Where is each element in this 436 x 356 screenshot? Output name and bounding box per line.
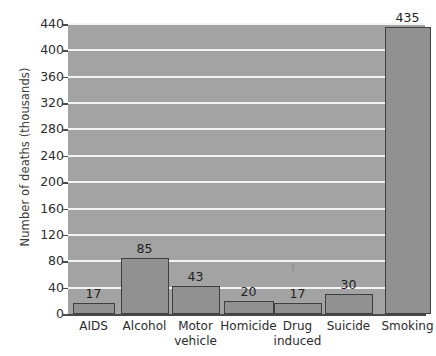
x-axis-line (68, 314, 426, 316)
y-tick-mark (63, 209, 68, 211)
gridline (68, 23, 425, 25)
y-tick-mark (63, 129, 68, 131)
y-tick-mark (63, 182, 68, 184)
y-tick-label: 0 (22, 308, 64, 320)
bar-value-label: 30 (319, 278, 379, 292)
bar (73, 303, 115, 314)
bar-value-label: 17 (64, 287, 124, 301)
bar (121, 258, 169, 314)
y-tick-label: 240 (22, 150, 64, 162)
y-axis-tick-labels: 04080120160200240280320360400440 (22, 24, 64, 314)
y-tick-label: 320 (22, 97, 64, 109)
y-tick-label: 200 (22, 176, 64, 188)
gridline (68, 208, 425, 210)
y-tick-label: 40 (22, 282, 64, 294)
gridline (68, 49, 425, 51)
y-tick-mark (63, 77, 68, 79)
y-tick-label: 280 (22, 123, 64, 135)
bar (224, 301, 274, 314)
y-tick-label: 400 (22, 44, 64, 56)
bar-chart: Number of deaths (thousands) 04080120160… (0, 0, 436, 356)
x-category-label: Smoking (374, 319, 436, 334)
bar-value-label: 85 (115, 242, 175, 256)
y-tick-mark (63, 103, 68, 105)
y-tick-mark (63, 235, 68, 237)
gridline (68, 181, 425, 183)
y-tick-mark (63, 261, 68, 263)
x-category-label: Suicide (315, 319, 383, 334)
y-tick-label: 80 (22, 255, 64, 267)
gridline (68, 102, 425, 104)
bar (172, 286, 220, 314)
y-tick-mark (63, 24, 68, 26)
y-tick-mark (63, 50, 68, 52)
y-tick-label: 360 (22, 71, 64, 83)
gridline (68, 76, 425, 78)
bar (325, 294, 373, 314)
bar (274, 303, 322, 314)
gridline (68, 128, 425, 130)
y-tick-label: 160 (22, 203, 64, 215)
scan-artifact-speck (292, 264, 294, 271)
gridline (68, 155, 425, 157)
bar-value-label: 43 (166, 270, 226, 284)
y-tick-mark (63, 314, 68, 316)
bar-value-label: 435 (378, 11, 436, 25)
y-tick-mark (63, 156, 68, 158)
gridline (68, 234, 425, 236)
bar (385, 27, 431, 314)
y-tick-label: 440 (22, 18, 64, 30)
y-tick-label: 120 (22, 229, 64, 241)
plot-area (68, 24, 425, 314)
